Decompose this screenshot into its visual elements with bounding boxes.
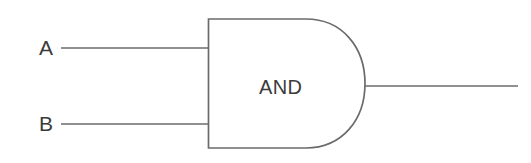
gate-type-label: AND bbox=[259, 77, 302, 97]
input-label-a: A bbox=[39, 37, 53, 58]
diagram-canvas: A B AND bbox=[0, 0, 531, 163]
input-label-b: B bbox=[39, 113, 53, 134]
